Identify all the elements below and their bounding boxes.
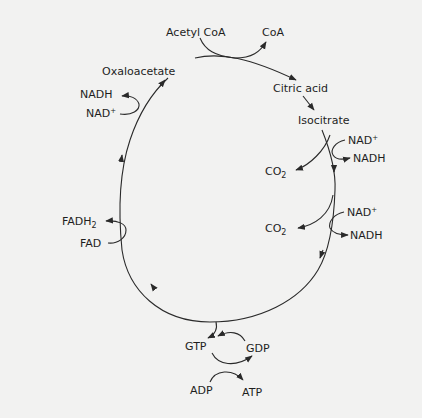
fad-branch — [106, 221, 126, 243]
arrow-to-citric-acid — [195, 56, 296, 80]
fadh2-label: FADH2 — [62, 215, 97, 230]
nadh-label-2: NADH — [350, 229, 383, 242]
acetyl-coa-label: Acetyl CoA — [166, 26, 226, 39]
gtp-label: GTP — [185, 340, 207, 353]
gtp-out — [208, 322, 217, 338]
adp-to-atp — [210, 372, 243, 382]
nadh-label-3: NADH — [80, 88, 113, 101]
second-branch — [298, 195, 348, 235]
gdp-to-gtp — [218, 333, 245, 341]
cycle-arc-right-bottom — [122, 130, 335, 322]
nad-plus-label-1: NAD+ — [348, 134, 378, 147]
arrow-right-2 — [320, 250, 323, 258]
citric-acid-label: Citric acid — [273, 82, 328, 95]
nad-to-nadh-3 — [120, 96, 139, 115]
citric-acid-cycle-diagram: Acetyl CoA CoA Oxaloacetate Citric acid … — [0, 0, 422, 418]
arrow-left-1 — [121, 155, 122, 162]
arrow-bottom-left — [151, 284, 154, 288]
acetyl-coa-branch — [200, 38, 266, 58]
nadh-label-1: NADH — [353, 152, 386, 165]
arrow-to-isocitrate — [303, 96, 314, 110]
nad-plus-label-3: NAD+ — [86, 107, 116, 120]
arrow-left-top — [160, 80, 165, 86]
isocitrate-label: Isocitrate — [298, 114, 350, 127]
coa-out — [235, 42, 266, 58]
fad-to-fadh2 — [106, 221, 126, 243]
co2-out-1 — [296, 135, 330, 170]
fad-label: FAD — [80, 237, 101, 250]
coa-label: CoA — [262, 26, 284, 39]
co2-label-1: CO2 — [265, 165, 286, 180]
co2-out-2 — [298, 195, 333, 228]
atp-label: ATP — [242, 386, 262, 399]
cycle-ring — [120, 56, 335, 322]
adp-label: ADP — [190, 384, 213, 397]
isocitrate-branch — [296, 135, 350, 170]
cycle-arc-left — [120, 78, 168, 250]
gdp-label: GDP — [246, 342, 270, 355]
oxaloacetate-label: Oxaloacetate — [102, 65, 176, 78]
malate-branch — [120, 96, 139, 115]
nad-plus-label-2: NAD+ — [347, 206, 377, 219]
co2-label-2: CO2 — [265, 222, 286, 237]
acetyl-coa-in — [200, 38, 235, 58]
